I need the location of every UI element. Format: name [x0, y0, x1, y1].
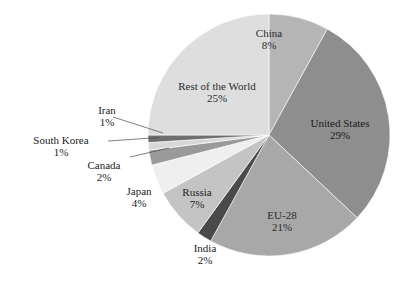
slice-label-japan-percent: 4%: [112, 197, 166, 209]
slice-label-south-korea-name: South Korea: [14, 134, 108, 146]
slice-label-canada: Canada 2%: [76, 159, 132, 184]
slice-label-eu28: EU-28 21%: [250, 209, 314, 234]
slice-label-rest-of-world: Rest of the World 25%: [157, 80, 277, 105]
slice-label-iran-name: Iran: [84, 104, 130, 116]
slice-label-russia-name: Russia: [168, 186, 226, 198]
slice-label-eu28-name: EU-28: [250, 209, 314, 221]
slice-label-united-states-name: United States: [298, 117, 382, 129]
slice-label-iran: Iran 1%: [84, 104, 130, 129]
slice-label-canada-percent: 2%: [76, 171, 132, 183]
slice-label-united-states-percent: 29%: [298, 129, 382, 141]
slice-label-rest-of-world-name: Rest of the World: [157, 80, 277, 92]
slice-label-united-states: United States 29%: [298, 117, 382, 142]
slice-label-india-name: India: [176, 242, 234, 254]
slice-label-russia-percent: 7%: [168, 198, 226, 210]
slice-label-rest-of-world-percent: 25%: [157, 92, 277, 104]
slice-label-india: India 2%: [176, 242, 234, 267]
slice-label-japan-name: Japan: [112, 185, 166, 197]
slice-label-japan: Japan 4%: [112, 185, 166, 210]
slice-label-china-name: China: [237, 27, 301, 39]
slice-label-india-percent: 2%: [176, 254, 234, 266]
slice-label-iran-percent: 1%: [84, 116, 130, 128]
slice-label-south-korea: South Korea 1%: [14, 134, 108, 159]
pie-chart-figure: China 8% United States 29% EU-28 21% Ind…: [0, 0, 408, 281]
slice-label-canada-name: Canada: [76, 159, 132, 171]
slice-label-russia: Russia 7%: [168, 186, 226, 211]
slice-label-eu28-percent: 21%: [250, 221, 314, 233]
slice-label-china: China 8%: [237, 27, 301, 52]
slice-label-south-korea-percent: 1%: [14, 146, 108, 158]
slice-label-china-percent: 8%: [237, 39, 301, 51]
